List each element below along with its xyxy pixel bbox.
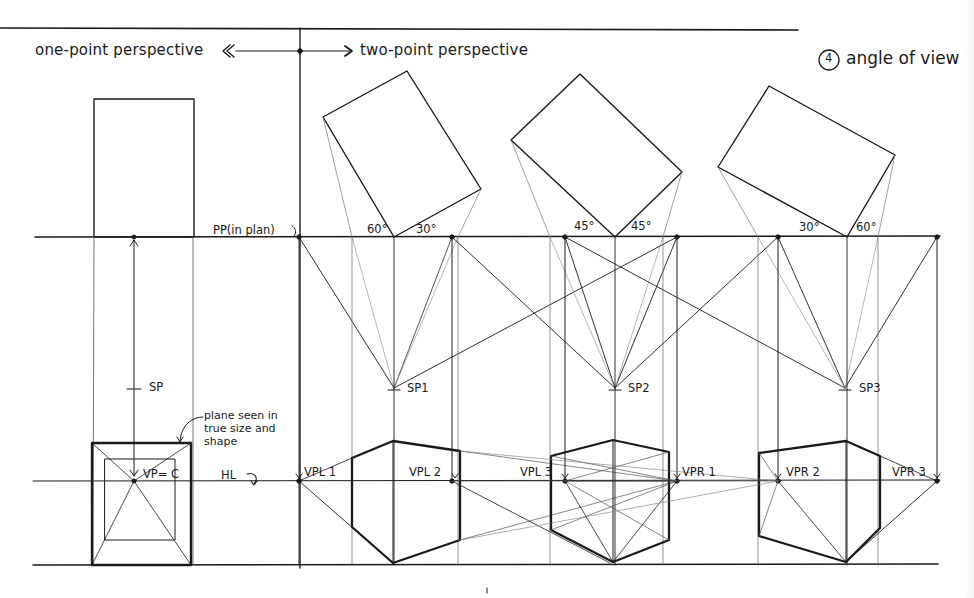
vpr1-label: VPR 1: [682, 467, 716, 479]
horizon-line-label: HL: [221, 470, 236, 482]
left-arrowhead-icon: [223, 45, 234, 57]
station-point-label: SP: [149, 382, 163, 394]
box-2: [551, 440, 669, 562]
vpl3-label: VPL 3: [520, 467, 552, 479]
vpl2-label: VPL 2: [409, 467, 441, 479]
top-border-line: [0, 28, 798, 30]
vpr3-label: VPR 3: [892, 467, 926, 479]
angle-label-1-right: 30°: [416, 224, 436, 236]
plan-square-2: [511, 74, 682, 237]
true-size-note: plane seen in true size and shape: [204, 409, 294, 448]
angle-label-3-left: 30°: [799, 222, 819, 234]
note-leader: [180, 417, 203, 442]
plan-rectangle: [94, 99, 194, 237]
angle-label-3-right: 60°: [856, 222, 876, 234]
one-point-title: one-point perspective: [35, 43, 203, 58]
angle-label-1-left: 60°: [367, 224, 387, 236]
divider-node: [298, 49, 303, 54]
plan-square-3: [718, 86, 895, 237]
section-title: angle of view: [846, 50, 960, 67]
angle-label-2-right: 45°: [631, 221, 651, 233]
pp-arrow-icon: [292, 226, 296, 236]
angle-label-2-left: 45°: [574, 221, 594, 233]
hl-arrow-icon: [247, 474, 257, 485]
page-edge-shadow: [964, 0, 974, 598]
sp1-label: SP1: [407, 383, 429, 395]
picture-plane-label: PP(in plan): [213, 225, 275, 237]
vp-center-label: VP= C: [143, 469, 179, 481]
box-3: [759, 441, 880, 562]
plan-square-1: [323, 71, 481, 237]
vpr2-label: VPR 2: [786, 467, 820, 479]
box-1: [352, 441, 460, 563]
sp2-label: SP2: [628, 383, 650, 395]
two-point-title: two-point perspective: [360, 43, 528, 58]
perspective-diagram: [0, 0, 974, 598]
one-point-box-front: [92, 443, 191, 565]
section-number: 4: [825, 53, 832, 65]
sp3-label: SP3: [859, 383, 881, 395]
vpl1-label: VPL 1: [304, 467, 336, 479]
